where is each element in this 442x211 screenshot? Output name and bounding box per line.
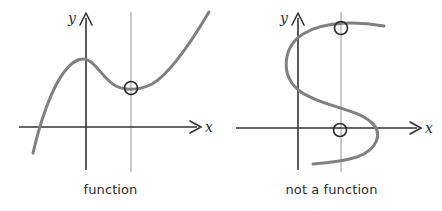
x-axis-label: x [425,120,433,136]
panel-not-a-function: x y not a function [221,0,442,211]
y-axis-label: y [67,10,77,26]
vertical-line-test-figure: x y function x y [0,0,442,211]
caption-not-a-function: not a function [221,180,442,200]
plot-function: x y [0,0,221,180]
curve-not-a-function [286,23,384,164]
curve-function [33,12,209,153]
x-axis-label: x [205,119,213,135]
panel-function: x y function [0,0,221,211]
y-axis-label: y [279,10,289,26]
plot-not-a-function: x y [221,0,442,180]
caption-function: function [0,180,221,200]
